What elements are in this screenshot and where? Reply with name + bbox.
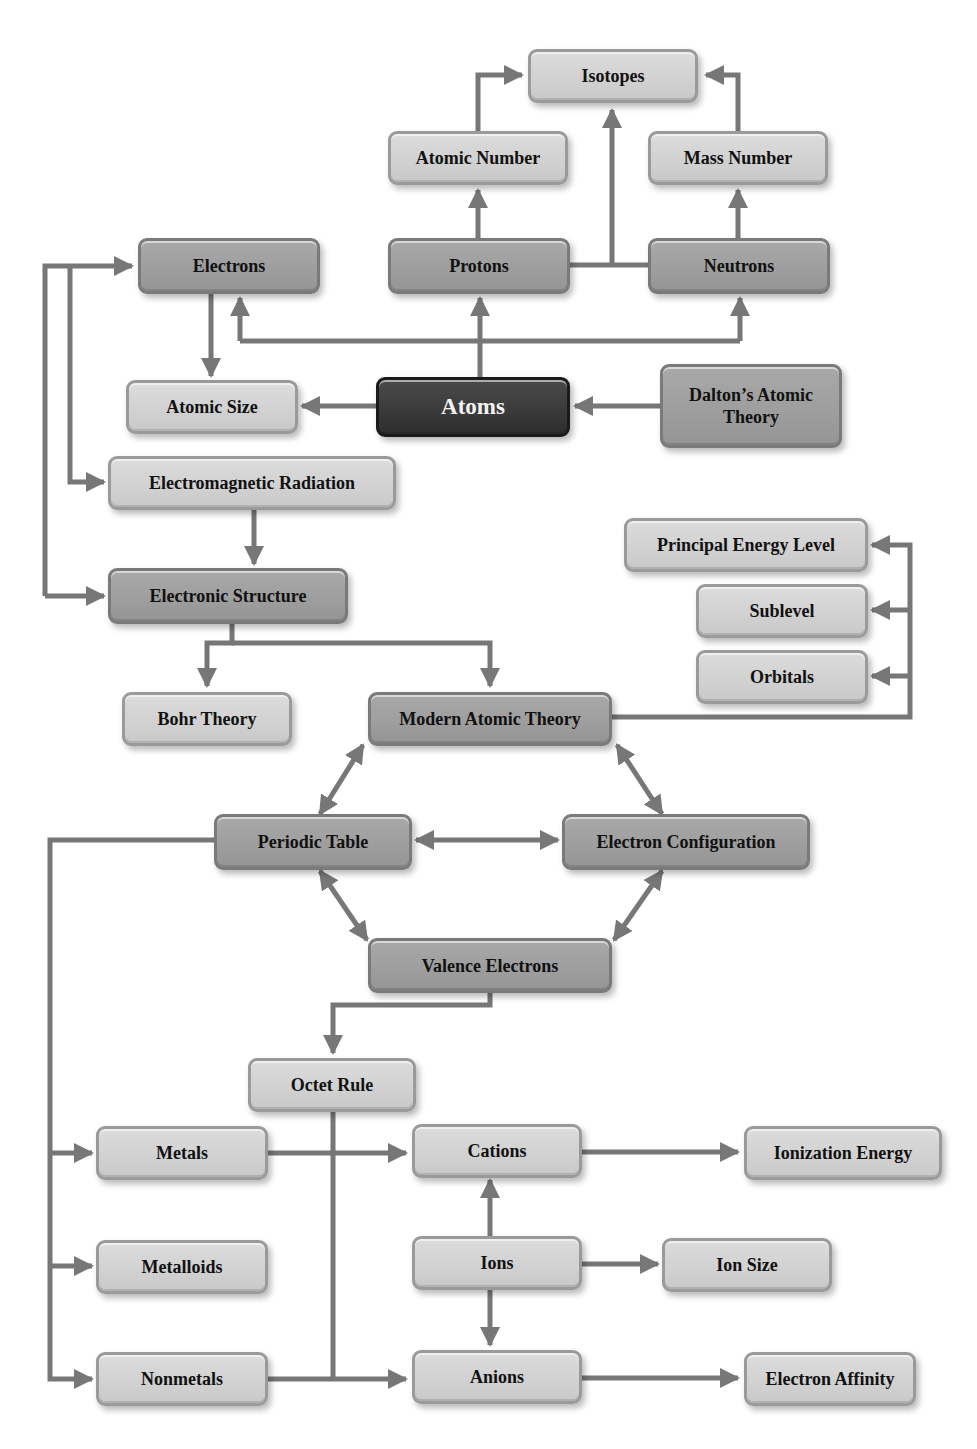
node-electromagnetic-radiation[interactable]: Electromagnetic Radiation bbox=[108, 456, 396, 510]
concept-map: Isotopes Atomic Number Mass Number Elect… bbox=[0, 0, 977, 1449]
node-metals[interactable]: Metals bbox=[96, 1126, 268, 1180]
node-principal-energy-level[interactable]: Principal Energy Level bbox=[624, 518, 868, 572]
node-periodic-table[interactable]: Periodic Table bbox=[214, 814, 412, 870]
node-atomic-number[interactable]: Atomic Number bbox=[388, 131, 568, 185]
node-octet-rule[interactable]: Octet Rule bbox=[248, 1058, 416, 1112]
node-ionization-energy[interactable]: Ionization Energy bbox=[744, 1126, 942, 1180]
node-neutrons[interactable]: Neutrons bbox=[648, 238, 830, 294]
node-cations[interactable]: Cations bbox=[412, 1124, 582, 1178]
node-bohr-theory[interactable]: Bohr Theory bbox=[122, 692, 292, 746]
node-electrons[interactable]: Electrons bbox=[138, 238, 320, 294]
node-daltons-atomic-theory[interactable]: Dalton’s Atomic Theory bbox=[660, 364, 842, 448]
node-electron-affinity[interactable]: Electron Affinity bbox=[744, 1352, 916, 1406]
node-atoms[interactable]: Atoms bbox=[376, 377, 570, 437]
node-modern-atomic-theory[interactable]: Modern Atomic Theory bbox=[368, 692, 612, 746]
node-atomic-size[interactable]: Atomic Size bbox=[126, 380, 298, 434]
node-valence-electrons[interactable]: Valence Electrons bbox=[368, 938, 612, 993]
node-anions[interactable]: Anions bbox=[412, 1350, 582, 1404]
node-orbitals[interactable]: Orbitals bbox=[696, 650, 868, 704]
node-ions[interactable]: Ions bbox=[412, 1236, 582, 1290]
node-sublevel[interactable]: Sublevel bbox=[696, 584, 868, 638]
node-mass-number[interactable]: Mass Number bbox=[648, 131, 828, 185]
node-electronic-structure[interactable]: Electronic Structure bbox=[108, 568, 348, 624]
node-ion-size[interactable]: Ion Size bbox=[662, 1238, 832, 1292]
node-protons[interactable]: Protons bbox=[388, 238, 570, 294]
node-electron-configuration[interactable]: Electron Configuration bbox=[562, 814, 810, 870]
node-nonmetals[interactable]: Nonmetals bbox=[96, 1352, 268, 1406]
node-isotopes[interactable]: Isotopes bbox=[528, 49, 698, 103]
node-metalloids[interactable]: Metalloids bbox=[96, 1240, 268, 1294]
